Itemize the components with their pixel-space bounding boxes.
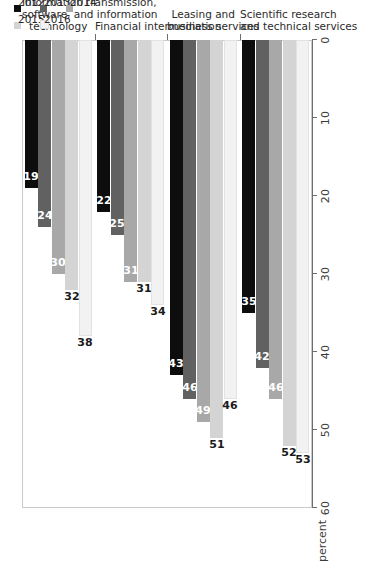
legend-label: 2014: [70, 0, 97, 8]
bar-fill: [256, 40, 269, 368]
bar: 51: [210, 40, 223, 438]
bar-fill: [52, 40, 65, 274]
bar: 30: [52, 40, 65, 274]
bar-value-label: 46: [182, 381, 198, 392]
axis-tick-label: 40: [319, 345, 332, 360]
bar-fill: [210, 40, 223, 438]
chart-page: percent 0102030405060 192430323822253131…: [0, 0, 370, 566]
bar: 31: [124, 40, 137, 282]
category-label-line: and technical services: [240, 20, 313, 32]
bar-fill: [138, 40, 151, 282]
axis-tick-label: 20: [319, 189, 332, 204]
bar: 22: [97, 40, 110, 212]
bar-value-label: 19: [23, 171, 39, 182]
bar: 52: [283, 40, 296, 446]
bar: 35: [242, 40, 255, 313]
bar: 49: [197, 40, 210, 422]
value-axis-line: [312, 40, 313, 508]
bar: 43: [170, 40, 183, 375]
bar-value-label: 25: [109, 218, 125, 229]
bar-fill: [79, 40, 92, 336]
bar-fill: [97, 40, 110, 212]
bar-fill: [170, 40, 183, 375]
axis-tick-label: 0: [319, 36, 332, 43]
bar-value-label: 32: [64, 290, 80, 301]
category-label-line: business services: [167, 20, 240, 32]
bar-value-label: 46: [222, 399, 238, 410]
bar-value-label: 24: [37, 210, 53, 221]
chart-legend: 20122013201420152016: [0, 0, 130, 32]
bar-fill: [38, 40, 51, 227]
bar: 24: [38, 40, 51, 227]
bar-value-label: 31: [123, 264, 139, 275]
axis-tick-label: 60: [319, 501, 332, 516]
category-label-line: Scientific research: [240, 8, 313, 20]
bar-value-label: 51: [209, 438, 225, 449]
bar-fill: [151, 40, 164, 305]
bar-value-label: 31: [136, 282, 152, 293]
bar: 19: [25, 40, 38, 188]
rotated-chart-canvas: percent 0102030405060 192430323822253131…: [0, 0, 370, 566]
axis-tick: [312, 117, 317, 118]
bar-value-label: 35: [241, 296, 257, 307]
bar-value-label: 42: [254, 350, 270, 361]
bar-value-label: 46: [268, 381, 284, 392]
bar-value-label: 30: [50, 257, 66, 268]
bar: 32: [65, 40, 78, 290]
bar-fill: [65, 40, 78, 290]
axis-tick: [312, 507, 317, 508]
axis-tick: [312, 351, 317, 352]
axis-tick: [312, 273, 317, 274]
bar: 25: [111, 40, 124, 235]
bar-fill: [269, 40, 282, 399]
category-label: Scientific researchand technical service…: [240, 8, 313, 32]
bar-fill: [242, 40, 255, 313]
bar-value-label: 22: [96, 194, 112, 205]
axis-tick: [312, 195, 317, 196]
bar: 42: [256, 40, 269, 368]
bar-value-label: 34: [150, 306, 166, 317]
bar-fill: [224, 40, 237, 399]
bar: 53: [296, 40, 309, 453]
bar-chart: percent 0102030405060 192430323822253131…: [0, 0, 370, 566]
bar: 38: [79, 40, 92, 336]
bar-fill: [124, 40, 137, 282]
bar-fill: [197, 40, 210, 422]
axis-tick: [312, 39, 317, 40]
bar-fill: [183, 40, 196, 399]
bar-fill: [111, 40, 124, 235]
bar-value-label: 38: [77, 337, 93, 348]
axis-unit-label: percent: [316, 520, 329, 562]
bar-fill: [296, 40, 309, 453]
category-label: Leasing andbusiness services: [167, 8, 240, 32]
bar-value-label: 43: [168, 358, 184, 369]
bar-fill: [283, 40, 296, 446]
axis-tick: [312, 429, 317, 430]
axis-tick-label: 30: [319, 267, 332, 282]
bar: 31: [138, 40, 151, 282]
bar: 46: [269, 40, 282, 399]
category-tick: [167, 34, 168, 40]
category-label-line: Leasing and: [167, 8, 240, 20]
axis-tick-label: 50: [319, 423, 332, 438]
bar: 46: [183, 40, 196, 399]
bar: 46: [224, 40, 237, 399]
category-tick: [240, 34, 241, 40]
axis-tick-label: 10: [319, 111, 332, 126]
bar: 34: [151, 40, 164, 305]
legend-label: 2016: [44, 13, 71, 25]
bar-value-label: 53: [295, 454, 311, 465]
category-tick: [95, 34, 96, 40]
bar-fill: [25, 40, 38, 188]
bar-value-label: 49: [195, 405, 211, 416]
